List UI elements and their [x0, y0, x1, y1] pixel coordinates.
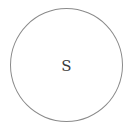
- node-label: S: [61, 59, 71, 74]
- diagram-canvas: S: [0, 0, 131, 136]
- state-node-s: S: [10, 8, 123, 122]
